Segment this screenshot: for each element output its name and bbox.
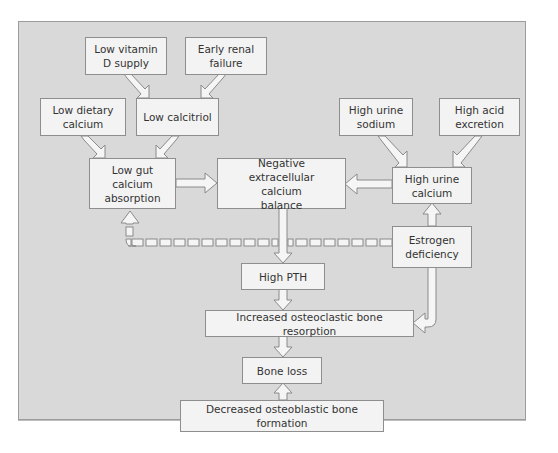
node-estrogen-deficiency: Estrogen deficiency [392, 226, 472, 268]
arrow-urinecalcium-to-balance [345, 174, 392, 194]
arrow-calcitriol-to-gut [156, 136, 179, 158]
node-high-urine-sodium: High urine sodium [339, 98, 413, 136]
node-early-renal-failure: Early renal failure [185, 37, 267, 75]
arrow-sodium-to-urinecalcium [378, 136, 407, 167]
node-increased-osteoclastic-bone-resorption: Increased osteoclastic bone resorption [205, 310, 414, 337]
node-high-urine-calcium: High urine calcium [392, 167, 472, 204]
arrow-formation-to-boneloss [274, 383, 292, 400]
node-low-calcitriol: Low calcitriol [136, 98, 219, 136]
node-low-vitamin-d-supply: Low vitamin D supply [85, 37, 167, 75]
arrow-balance-to-pth [274, 208, 292, 263]
arrow-resorption-to-boneloss [274, 336, 292, 357]
arrow-renal-to-calcitriol [201, 74, 226, 98]
arrow-estrogen-to-resorption [413, 267, 436, 333]
dashed-arrow-estrogen-to-gut [121, 211, 392, 246]
node-low-dietary-calcium: Low dietary calcium [40, 98, 126, 136]
arrow-gut-to-balance [176, 173, 217, 193]
arrow-pth-to-resorption [274, 289, 292, 310]
arrow-estrogen-to-urinecalcium [423, 203, 441, 226]
arrow-vitd-to-calcitriol [124, 74, 149, 98]
arrow-acid-to-urinecalcium [453, 136, 482, 167]
arrow-dietary-to-gut [81, 136, 105, 158]
node-bone-loss: Bone loss [242, 357, 322, 384]
node-decreased-osteoblastic-bone-formation: Decreased osteoblastic bone formation [180, 400, 384, 432]
node-negative-extracellular-calcium-balance: Negative extracellular calcium balance [217, 158, 346, 209]
node-low-gut-calcium-absorption: Low gut calcium absorption [89, 158, 176, 209]
node-high-pth: High PTH [241, 263, 325, 290]
arrows-layer: .ar { fill: #f5f5f5; stroke: #8a8a8a; st… [0, 0, 558, 453]
node-high-acid-excretion: High acid excretion [439, 98, 520, 136]
